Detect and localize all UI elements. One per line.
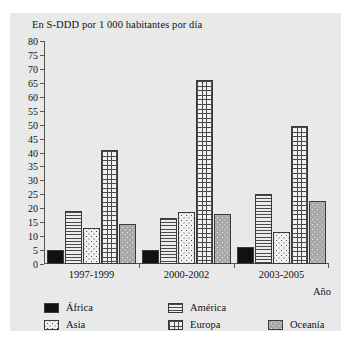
x-axis-separator-tick	[234, 264, 235, 268]
bar-america[interactable]	[255, 194, 272, 264]
bar-africa[interactable]	[142, 250, 159, 264]
legend-item-africa: África	[44, 302, 93, 313]
y-axis-tick-label: 15	[28, 217, 38, 228]
bar-america[interactable]	[65, 211, 82, 264]
y-axis-tick-label: 65	[28, 77, 38, 88]
bar-europa[interactable]	[196, 80, 213, 264]
legend-swatch-europa-icon	[168, 320, 183, 330]
chart-legend: África América Asia Europa Oce	[20, 302, 335, 341]
legend-label-america: América	[190, 302, 226, 313]
legend-item-europa: Europa	[168, 319, 220, 330]
y-axis-tick-label: 35	[28, 161, 38, 172]
bar-group-bars	[44, 41, 139, 264]
x-axis-group-label: 1997-1999	[44, 269, 139, 280]
y-axis-tick-label: 75	[28, 49, 38, 60]
bar-oceania[interactable]	[309, 201, 326, 264]
x-axis-group-label: 2003-2005	[234, 269, 329, 280]
bar-oceania[interactable]	[214, 214, 231, 264]
bar-africa[interactable]	[47, 250, 64, 264]
x-axis-group-label: 2000-2002	[139, 269, 234, 280]
legend-item-asia: Asia	[44, 319, 85, 330]
legend-label-europa: Europa	[190, 319, 220, 330]
y-axis-tick-label: 80	[28, 36, 38, 47]
y-axis-tick-label: 0	[33, 259, 38, 270]
x-axis-separator-tick	[328, 264, 329, 268]
bar-group: 2000-2002	[139, 41, 234, 264]
x-axis-title: Año	[313, 286, 331, 297]
legend-row-2: Asia Europa Oceanía	[20, 319, 335, 337]
bar-group: 2003-2005	[234, 41, 329, 264]
y-axis-tick-label: 60	[28, 91, 38, 102]
legend-swatch-asia-icon	[44, 320, 59, 330]
bar-europa[interactable]	[291, 126, 308, 264]
bar-asia[interactable]	[273, 232, 290, 264]
legend-label-oceania: Oceanía	[290, 319, 324, 330]
y-axis-tick-label: 5	[33, 245, 38, 256]
y-axis-tick-label: 30	[28, 175, 38, 186]
legend-swatch-oceania-icon	[268, 320, 283, 330]
legend-row-1: África América	[20, 302, 335, 320]
legend-label-africa: África	[66, 302, 93, 313]
y-axis-tick-label: 25	[28, 189, 38, 200]
y-axis-tick-label: 10	[28, 231, 38, 242]
chart-screenshot: En S-DDD por 1 000 habitantes por día 05…	[0, 0, 351, 341]
plot-area: 051015202530354045505560657075801997-199…	[44, 41, 329, 264]
legend-swatch-africa-icon	[44, 303, 59, 313]
y-axis-title: En S-DDD por 1 000 habitantes por día	[32, 19, 202, 30]
legend-swatch-america-icon	[168, 303, 183, 313]
y-axis-tick	[40, 264, 44, 265]
x-axis-separator-tick	[139, 264, 140, 268]
bar-america[interactable]	[160, 218, 177, 264]
legend-item-oceania: Oceanía	[268, 319, 324, 330]
y-axis-tick-label: 70	[28, 63, 38, 74]
bar-europa[interactable]	[101, 150, 118, 264]
legend-label-asia: Asia	[66, 319, 85, 330]
y-axis-tick-label: 45	[28, 133, 38, 144]
y-axis-tick-label: 55	[28, 105, 38, 116]
y-axis-tick-label: 40	[28, 147, 38, 158]
y-axis-tick-label: 50	[28, 119, 38, 130]
bar-group: 1997-1999	[44, 41, 139, 264]
legend-item-america: América	[168, 302, 226, 313]
bar-asia[interactable]	[83, 228, 100, 264]
y-axis-tick-label: 20	[28, 203, 38, 214]
bar-africa[interactable]	[237, 247, 254, 264]
chart-panel: En S-DDD por 1 000 habitantes por día 05…	[10, 13, 341, 331]
bar-asia[interactable]	[178, 212, 195, 264]
bar-group-bars	[234, 41, 329, 264]
bar-oceania[interactable]	[119, 224, 136, 264]
bar-group-bars	[139, 41, 234, 264]
